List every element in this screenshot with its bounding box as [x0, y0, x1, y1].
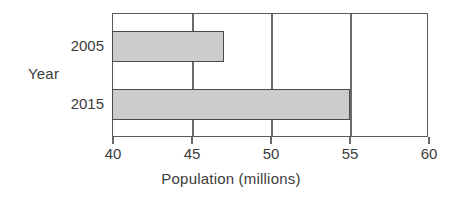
- x-axis-tick: [349, 137, 351, 144]
- plot-area: [112, 13, 428, 137]
- x-axis-tick: [428, 137, 430, 144]
- bar-chart: Year 2005 2015 40 45 50 55 60 Population…: [0, 0, 462, 206]
- x-axis-tick-label: 60: [409, 145, 449, 162]
- x-axis-tick-label: 50: [251, 145, 291, 162]
- x-axis-tick-label: 55: [330, 145, 370, 162]
- x-axis-tick-label: 40: [93, 145, 133, 162]
- x-axis-tick: [112, 137, 114, 144]
- y-axis-tick-label: 2005: [34, 37, 104, 54]
- bar: [112, 89, 351, 120]
- y-axis-tick-label: 2015: [34, 95, 104, 112]
- x-axis-title: Population (millions): [0, 170, 462, 187]
- y-axis-title: Year: [28, 65, 59, 82]
- x-axis-tick: [191, 137, 193, 144]
- x-axis-tick-label: 45: [172, 145, 212, 162]
- x-axis-tick: [270, 137, 272, 144]
- bar: [112, 31, 224, 62]
- gridline: [350, 14, 352, 136]
